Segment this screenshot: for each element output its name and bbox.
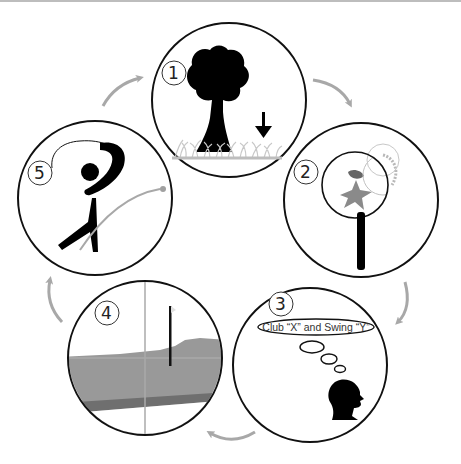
step-1-number: 1 — [168, 63, 179, 83]
step-5-number: 5 — [34, 163, 45, 183]
arrow-1-to-2 — [313, 80, 350, 104]
thought-text: Club “X” and Swing “Y” — [262, 321, 370, 333]
step-4-number: 4 — [101, 303, 112, 323]
arrow-2-to-3 — [398, 282, 407, 322]
step-4: 4 — [60, 280, 230, 440]
arrow-5-to-1 — [103, 78, 140, 106]
arrow-3-to-4 — [210, 432, 255, 439]
step-1: 1 — [152, 23, 306, 177]
step-5: 5 — [18, 121, 172, 275]
arrow-4-to-5 — [49, 280, 62, 322]
step-3-number: 3 — [275, 294, 286, 314]
crosshair-flag-icon — [60, 280, 230, 440]
step-2-number: 2 — [300, 162, 311, 182]
step-2: 2 — [284, 123, 438, 277]
golf-cycle-diagram: 1 2 3 — [0, 0, 461, 464]
step-3: 3 Club “X” and Swing “Y” — [233, 288, 387, 442]
